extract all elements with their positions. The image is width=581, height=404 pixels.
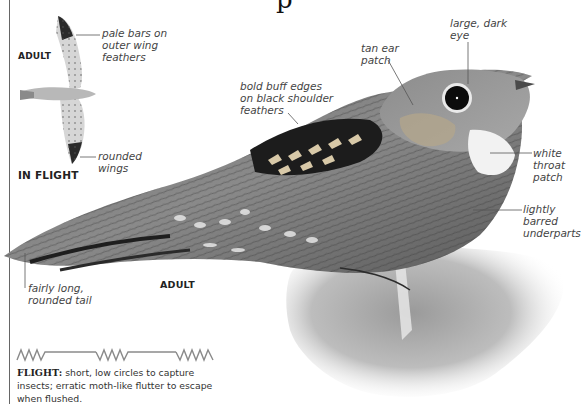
nightjar-in-flight-figure	[20, 16, 96, 164]
flight-heading: FLIGHT:	[17, 367, 62, 378]
annotation-rounded-tail: fairly long, rounded tail	[28, 282, 92, 306]
zigzag-flight-pattern-icon	[17, 350, 213, 360]
flight-description: FLIGHT: short, low circles to capture in…	[17, 366, 232, 404]
annotation-pale-bars: pale bars on outer wing feathers	[102, 27, 167, 63]
annotation-lightly-barred-underparts: lightly barred underparts	[523, 203, 581, 239]
flight-figure-adult-label: ADULT	[18, 51, 51, 61]
annotation-large-dark-eye: large, dark eye	[450, 17, 507, 41]
annotation-shoulder-feathers: bold buff edges on black shoulder feathe…	[240, 80, 333, 116]
annotation-white-throat-patch: white throat patch	[533, 147, 565, 183]
annotation-rounded-wings: rounded wings	[98, 150, 142, 174]
in-flight-caption: IN FLIGHT	[18, 169, 79, 181]
main-figure-adult-label: ADULT	[160, 279, 195, 290]
annotation-tan-ear-patch: tan ear patch	[361, 42, 399, 66]
